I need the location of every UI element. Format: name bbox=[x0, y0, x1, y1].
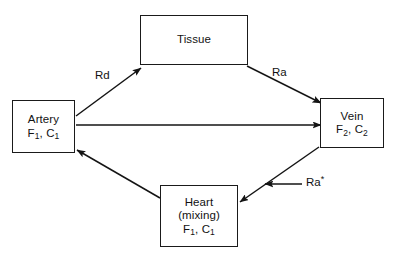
edge-label-ra: Ra bbox=[272, 66, 287, 78]
edge-label-ra-star-superscript: * bbox=[321, 174, 325, 184]
node-vein[interactable]: Vein F2, C2 bbox=[320, 98, 384, 148]
node-vein-conc-subscript: 2 bbox=[363, 128, 368, 138]
node-heart-separator: , bbox=[195, 223, 202, 235]
node-heart-flow-subscript: 1 bbox=[190, 227, 195, 237]
node-vein-conc-symbol: C bbox=[355, 123, 363, 135]
node-artery[interactable]: Artery F1, C1 bbox=[12, 100, 75, 153]
node-artery-conc-subscript: 1 bbox=[55, 131, 60, 141]
node-vein-flow-subscript: 2 bbox=[343, 128, 348, 138]
node-heart-qualifier: (mixing) bbox=[178, 209, 220, 223]
node-vein-label: Vein bbox=[341, 110, 364, 124]
node-artery-parameters: F1, C1 bbox=[28, 127, 60, 141]
node-vein-separator: , bbox=[348, 123, 355, 135]
node-heart-conc-subscript: 1 bbox=[210, 227, 215, 237]
diagram-canvas: Tissue Artery F1, C1 Vein F2, C2 Heart (… bbox=[0, 0, 396, 258]
edge-heart-to-artery bbox=[77, 150, 160, 198]
edge-label-rd: Rd bbox=[95, 69, 110, 81]
node-heart-parameters: F1, C1 bbox=[183, 223, 215, 237]
node-heart[interactable]: Heart (mixing) F1, C1 bbox=[160, 185, 238, 247]
edge-label-ra-star: Ra* bbox=[306, 176, 324, 188]
node-artery-conc-symbol: C bbox=[46, 127, 54, 139]
edge-label-ra-star-base: Ra bbox=[306, 176, 321, 188]
node-heart-conc-symbol: C bbox=[202, 223, 210, 235]
node-artery-label: Artery bbox=[28, 113, 59, 127]
node-vein-parameters: F2, C2 bbox=[336, 123, 368, 137]
node-tissue-label: Tissue bbox=[177, 33, 211, 47]
edge-vein-to-heart bbox=[240, 147, 319, 202]
node-artery-flow-symbol: F bbox=[28, 127, 35, 139]
node-tissue[interactable]: Tissue bbox=[140, 15, 248, 65]
node-heart-label: Heart bbox=[185, 196, 214, 210]
node-artery-flow-subscript: 1 bbox=[35, 131, 40, 141]
